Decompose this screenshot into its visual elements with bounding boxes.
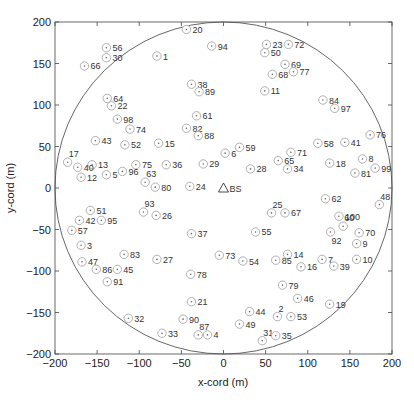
- dot-marker-icon: [329, 162, 331, 164]
- dot-marker-icon: [287, 168, 289, 170]
- point-label: 73: [225, 251, 235, 261]
- dot-marker-icon: [189, 186, 191, 188]
- point-label: 72: [294, 40, 304, 50]
- x-tick-label: 50: [260, 357, 272, 369]
- dot-marker-icon: [90, 210, 92, 212]
- point-label: 48: [380, 192, 390, 202]
- user-point: 57: [68, 226, 88, 236]
- point-label: 98: [123, 115, 133, 125]
- user-point: 29: [199, 159, 219, 169]
- point-label: 20: [192, 25, 202, 35]
- point-label: 64: [113, 94, 123, 104]
- dot-marker-icon: [266, 44, 268, 46]
- dot-marker-icon: [156, 55, 158, 57]
- point-label: 33: [168, 329, 178, 339]
- user-point: 5: [102, 170, 117, 180]
- user-point: 94: [208, 42, 228, 52]
- point-label: 53: [297, 312, 307, 322]
- point-label: 51: [96, 206, 106, 216]
- point-label: 77: [299, 67, 309, 77]
- point-label: 79: [288, 281, 298, 291]
- y-tick-label: 50: [39, 141, 51, 153]
- user-point: 45: [113, 265, 133, 275]
- user-point: 39: [330, 262, 350, 272]
- point-label: 6: [231, 149, 236, 159]
- dot-marker-icon: [95, 140, 97, 142]
- dot-marker-icon: [191, 233, 193, 235]
- point-label: 13: [98, 160, 108, 170]
- user-point: 19: [325, 300, 345, 310]
- user-point: 86: [92, 265, 112, 275]
- x-tick-label: 0: [220, 357, 226, 369]
- dot-marker-icon: [186, 29, 188, 31]
- point-label: 18: [336, 159, 346, 169]
- point-label: 12: [87, 173, 97, 183]
- point-label: 9: [363, 239, 368, 249]
- point-label: 46: [304, 294, 314, 304]
- user-point: 53: [287, 312, 307, 322]
- dot-marker-icon: [293, 71, 295, 73]
- point-label: 1: [163, 52, 168, 62]
- user-point: 66: [80, 61, 100, 71]
- dot-marker-icon: [255, 231, 257, 233]
- point-label: 88: [204, 131, 214, 141]
- point-label: 74: [136, 125, 146, 135]
- point-label: 10: [363, 255, 373, 265]
- user-point: 30: [102, 53, 122, 63]
- user-point: 80: [151, 183, 171, 193]
- dot-marker-icon: [80, 244, 82, 246]
- y-tick-label: 200: [33, 16, 51, 28]
- point-label: 71: [297, 148, 307, 158]
- user-point: 98: [113, 115, 133, 125]
- user-point: 71: [287, 148, 307, 158]
- point-label: 49: [246, 320, 256, 330]
- point-label: 96: [128, 167, 138, 177]
- point-label: 85: [282, 256, 292, 266]
- point-label: 95: [107, 216, 117, 226]
- user-point: 73: [215, 251, 235, 261]
- point-label: 43: [101, 136, 111, 146]
- user-point: 92: [326, 228, 341, 246]
- triangle-icon: [219, 183, 229, 192]
- dot-marker-icon: [156, 259, 158, 261]
- point-label: 55: [262, 227, 272, 237]
- point-label: 28: [256, 164, 266, 174]
- x-tick-label: 100: [299, 357, 317, 369]
- dot-marker-icon: [239, 147, 241, 149]
- dot-marker-icon: [77, 166, 79, 168]
- point-label: 11: [271, 86, 280, 96]
- point-label: 17: [69, 149, 79, 159]
- dot-marker-icon: [144, 181, 146, 183]
- point-label: 67: [291, 208, 301, 218]
- user-point: 41: [341, 138, 361, 148]
- user-point: 40: [74, 163, 94, 173]
- point-label: 91: [113, 277, 123, 287]
- point-label: 44: [256, 307, 266, 317]
- point-label: 16: [307, 262, 317, 272]
- point-label: 62: [331, 194, 341, 204]
- dot-marker-icon: [379, 204, 381, 206]
- user-point: 61: [192, 111, 212, 121]
- dot-marker-icon: [207, 334, 209, 336]
- point-label: 27: [163, 255, 173, 265]
- point-label: 5: [112, 170, 117, 180]
- dot-marker-icon: [196, 115, 198, 117]
- dot-marker-icon: [106, 57, 108, 59]
- point-label: 36: [172, 160, 182, 170]
- dot-marker-icon: [127, 318, 129, 320]
- user-point: 24: [186, 182, 206, 192]
- user-point: 81: [351, 169, 371, 179]
- point-label: 25: [273, 200, 283, 210]
- point-label: 75: [142, 160, 152, 170]
- point-label: 93: [144, 199, 154, 209]
- user-point: 90: [179, 315, 199, 325]
- point-label: 97: [341, 104, 351, 114]
- user-point: 97: [331, 104, 351, 114]
- dot-marker-icon: [321, 259, 323, 261]
- dot-marker-icon: [161, 332, 163, 334]
- user-point: 50: [261, 48, 281, 58]
- user-point: 49: [235, 320, 255, 330]
- user-point: 99: [371, 164, 391, 174]
- dot-marker-icon: [154, 186, 156, 188]
- x-tick-label: −50: [172, 357, 191, 369]
